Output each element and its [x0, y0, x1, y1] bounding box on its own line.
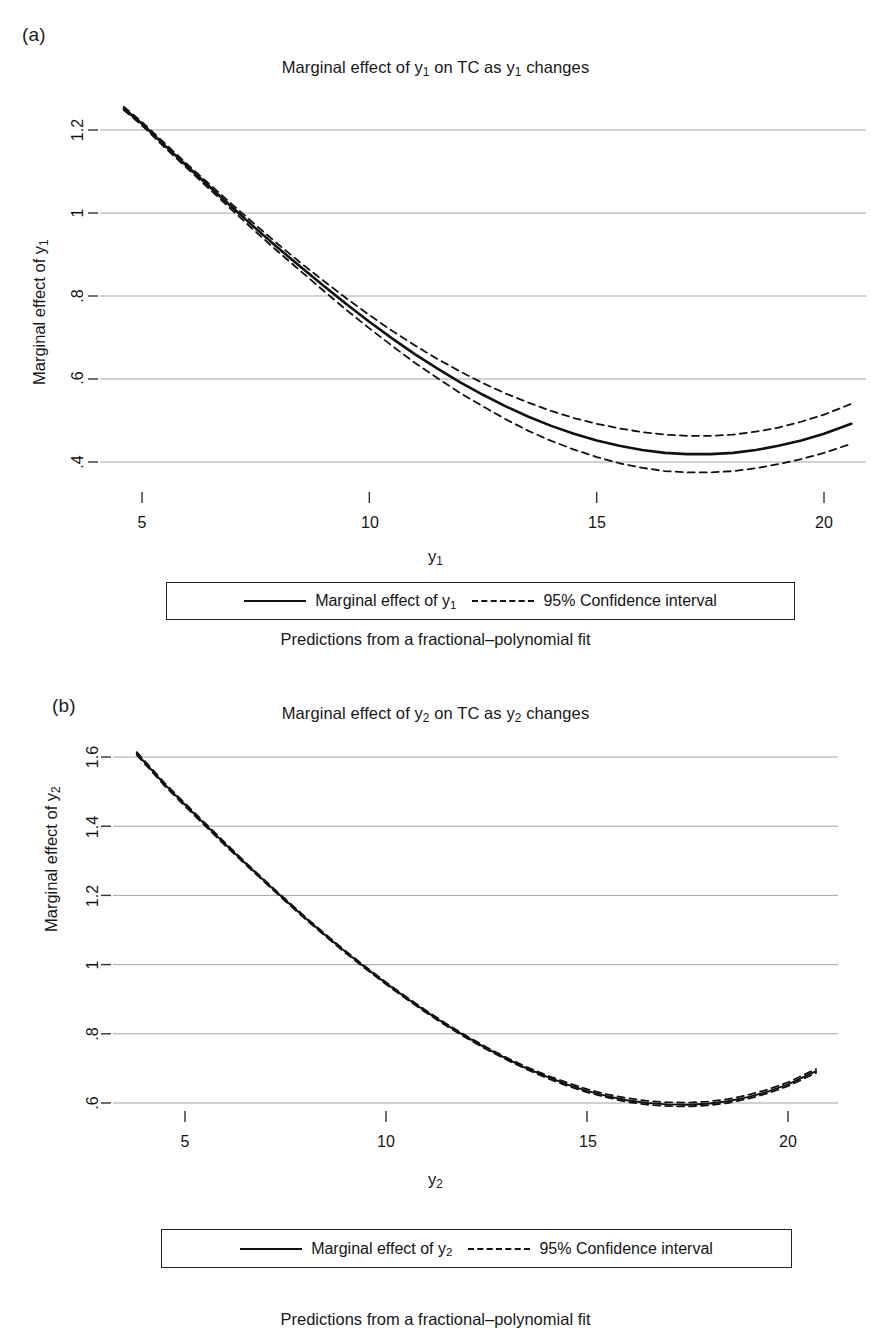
legend-label-a-solid-sub: 1	[450, 599, 456, 611]
legend-a: Marginal effect of y1 95% Confidence int…	[166, 582, 795, 620]
legend-label-b-solid: Marginal effect of y2	[311, 1240, 452, 1258]
x-tick-a-2: 15	[588, 514, 606, 532]
x-tick-b-0: 5	[181, 1133, 190, 1151]
legend-label-b-solid-sub: 2	[446, 1246, 452, 1258]
x-tick-a-0: 5	[138, 514, 147, 532]
y-tick-b-4: .8	[84, 1027, 102, 1040]
x-tick-b-1: 10	[377, 1133, 395, 1151]
legend-solid-line-icon	[240, 1248, 302, 1250]
legend-dashed-line-icon	[468, 1248, 530, 1250]
x-tick-a-3: 20	[815, 514, 833, 532]
y-tick-b-3: 1	[84, 961, 102, 970]
legend-entry-b-dashed: 95% Confidence interval	[468, 1240, 712, 1258]
y-tick-a-1: 1	[69, 209, 87, 218]
y-tick-a-3: .6	[69, 371, 87, 384]
legend-entry-a-dashed: 95% Confidence interval	[472, 592, 716, 610]
x-tick-b-2: 15	[579, 1133, 597, 1151]
y-tick-a-4: .4	[69, 455, 87, 468]
legend-label-b-solid-text: Marginal effect of y	[311, 1240, 446, 1257]
legend-label-b-dashed: 95% Confidence interval	[539, 1240, 712, 1258]
x-tick-a-1: 10	[361, 514, 379, 532]
note-a: Predictions from a fractional–polynomial…	[0, 630, 871, 649]
panel-a: (a) Marginal effect of y1 on TC as y1 ch…	[0, 0, 871, 662]
y-tick-b-2: 1.2	[84, 885, 102, 907]
x-axis-title-a: y1	[0, 547, 871, 566]
x-tick-b-3: 20	[779, 1133, 797, 1151]
x-axis-title-b-sub: 2	[436, 1177, 443, 1191]
y-tick-b-0: 1.6	[84, 746, 102, 768]
legend-entry-b-solid: Marginal effect of y2	[240, 1240, 452, 1258]
legend-b: Marginal effect of y2 95% Confidence int…	[161, 1229, 792, 1268]
plot-area-b	[0, 662, 871, 1323]
y-tick-a-0: 1.2	[69, 119, 87, 141]
x-axis-title-b: y2	[0, 1170, 871, 1189]
legend-label-a-solid-text: Marginal effect of y	[315, 592, 450, 609]
note-b: Predictions from a fractional–polynomial…	[0, 1310, 871, 1329]
panel-b: (b) Marginal effect of y2 on TC as y2 ch…	[0, 662, 871, 1323]
legend-dashed-line-icon	[472, 600, 534, 602]
legend-label-a-dashed: 95% Confidence interval	[543, 592, 716, 610]
legend-solid-line-icon	[244, 600, 306, 602]
y-tick-b-5: .6	[84, 1096, 102, 1109]
legend-label-a-solid: Marginal effect of y1	[315, 592, 456, 610]
legend-entry-a-solid: Marginal effect of y1	[244, 592, 456, 610]
x-axis-title-a-sub: 1	[436, 554, 443, 568]
y-tick-b-1: 1.4	[84, 816, 102, 838]
y-tick-a-2: .8	[69, 289, 87, 302]
